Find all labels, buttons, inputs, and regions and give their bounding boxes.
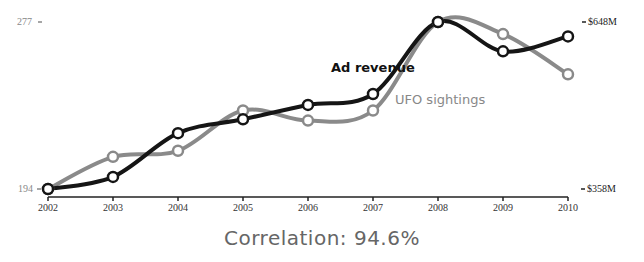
x-tick-label: 2003: [103, 202, 123, 213]
ad-revenue-point: [173, 128, 183, 138]
ad-revenue-point: [563, 31, 573, 41]
ufo-sightings-point: [303, 116, 313, 126]
ad-revenue-point: [43, 184, 53, 194]
ad-revenue-point: [303, 100, 313, 110]
ad-revenue-point: [433, 17, 443, 27]
left-axis: 277 194: [17, 16, 42, 194]
x-tick-label: 2006: [298, 202, 318, 213]
ufo-sightings-point: [498, 29, 508, 39]
correlation-annotation: Correlation: 94.6%: [0, 226, 644, 250]
x-tick-label: 2009: [493, 202, 513, 213]
x-tick-label: 2005: [233, 202, 253, 213]
ad-revenue-point: [108, 172, 118, 182]
x-tick-label: 2008: [428, 202, 448, 213]
ufo-sightings-label: UFO sightings: [395, 92, 485, 107]
ufo-sightings-point: [368, 106, 378, 116]
ad-revenue-point: [368, 89, 378, 99]
ad-revenue-points: [43, 17, 573, 194]
x-tick-label: 2010: [558, 202, 578, 213]
right-axis: $648M $358M: [581, 16, 617, 194]
ufo-sightings-point: [108, 152, 118, 162]
x-tick-label: 2007: [363, 202, 383, 213]
right-axis-top-label: $648M: [588, 16, 617, 27]
dual-axis-line-chart: 200220032004200520062007200820092010 277…: [0, 0, 644, 262]
ad-revenue-point: [498, 46, 508, 56]
left-axis-bottom-label: 194: [18, 183, 33, 194]
ufo-sightings-point: [173, 146, 183, 156]
ufo-sightings-point: [563, 69, 573, 79]
ad-revenue-label: Ad revenue: [331, 60, 415, 75]
x-axis: 200220032004200520062007200820092010: [38, 197, 578, 213]
right-axis-bottom-label: $358M: [587, 183, 616, 194]
ad-revenue-point: [238, 114, 248, 124]
x-tick-label: 2002: [38, 202, 58, 213]
x-tick-label: 2004: [168, 202, 188, 213]
left-axis-top-label: 277: [17, 16, 32, 27]
